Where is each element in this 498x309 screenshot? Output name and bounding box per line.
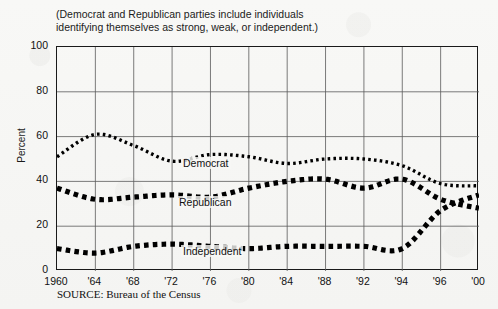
plot-area	[56, 46, 478, 270]
y-tick-label: 20	[14, 218, 48, 230]
plot-svg	[57, 47, 479, 271]
x-tick-label: '76	[203, 275, 217, 287]
source-note: SOURCE: Bureau of the Census	[57, 288, 201, 300]
y-axis-title: Percent	[16, 116, 27, 176]
series-label-independent: Independent	[181, 245, 243, 257]
x-tick-label: '88	[318, 275, 332, 287]
x-tick-label: '80	[241, 275, 255, 287]
party-identification-chart: (Democrat and Republican parties include…	[0, 0, 498, 309]
x-tick-label: '96	[433, 275, 447, 287]
series-line-independent	[57, 195, 479, 253]
x-tick-label: '94	[394, 275, 408, 287]
y-tick-label: 0	[14, 263, 48, 275]
y-tick-label: 40	[14, 173, 48, 185]
series-label-republican: Republican	[177, 196, 234, 208]
x-tick-label: '84	[279, 275, 293, 287]
y-tick-label: 80	[14, 84, 48, 96]
y-tick-label: 100	[14, 39, 48, 51]
x-tick-label: '68	[126, 275, 140, 287]
x-tick-label: '72	[164, 275, 178, 287]
series-line-democrat	[57, 134, 479, 186]
x-tick-label: '00	[471, 275, 485, 287]
x-tick-label: 1960	[44, 275, 67, 287]
y-tick-label: 60	[14, 129, 48, 141]
x-tick-label: '92	[356, 275, 370, 287]
x-tick-label: '64	[88, 275, 102, 287]
chart-title: (Democrat and Republican parties include…	[56, 8, 386, 33]
series-label-democrat: Democrat	[181, 157, 231, 169]
series-line-republican	[57, 179, 479, 208]
